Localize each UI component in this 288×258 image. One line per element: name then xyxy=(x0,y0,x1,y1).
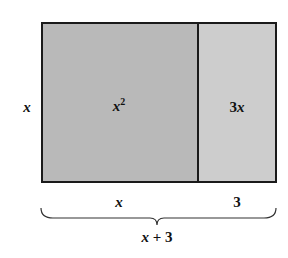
curly-brace-icon xyxy=(0,0,288,258)
total-length-label: x + 3 xyxy=(141,230,172,245)
